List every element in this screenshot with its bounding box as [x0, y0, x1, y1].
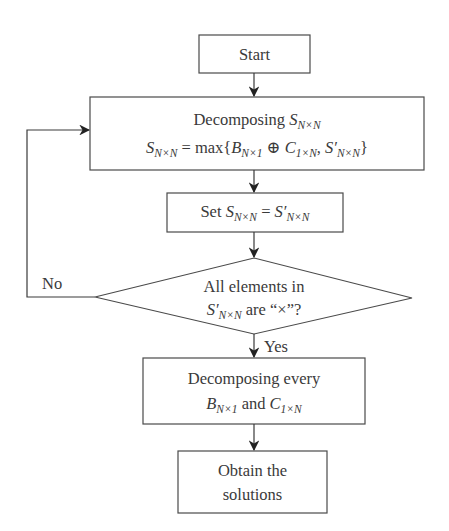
yes-label: Yes	[264, 337, 288, 356]
decision-node: All elements in S′N×N are “×”?	[95, 258, 412, 334]
obtain-line2: solutions	[223, 485, 283, 504]
no-label: No	[42, 274, 62, 293]
obtain-node: Obtain the solutions	[178, 451, 327, 513]
decompose-every-node: Decomposing every BN×1 and C1×N	[143, 358, 365, 424]
start-node: Start	[199, 35, 310, 73]
obtain-line1: Obtain the	[218, 461, 287, 480]
arrow-no-loop	[27, 130, 95, 297]
flowchart: Start Decomposing SN×N SN×N = max{BN×1 ⊕…	[0, 0, 449, 531]
start-label: Start	[239, 45, 271, 64]
decision-line1: All elements in	[204, 277, 305, 296]
decompose-every-line1: Decomposing every	[188, 369, 321, 388]
decompose-node: Decomposing SN×N SN×N = max{BN×1 ⊕ C1×N,…	[90, 97, 424, 170]
set-node: Set SN×N = S′N×N	[167, 193, 343, 232]
